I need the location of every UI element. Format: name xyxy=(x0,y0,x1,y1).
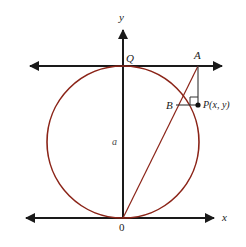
diagram-canvas xyxy=(0,0,246,247)
radius-a-label: a xyxy=(112,137,117,147)
point-q-label: Q xyxy=(126,53,134,64)
point-p-label: P(x, y) xyxy=(203,100,230,110)
origin-label: 0 xyxy=(119,222,125,233)
ray-origin-to-a xyxy=(123,66,198,218)
point-p-dot xyxy=(195,102,200,107)
y-axis-label: y xyxy=(119,12,124,23)
point-b-label: B xyxy=(166,100,173,111)
x-axis-label: x xyxy=(222,212,227,223)
point-a-label: A xyxy=(194,50,201,61)
geometry-figure: y x 0 Q a A B P(x, y) xyxy=(0,0,246,247)
